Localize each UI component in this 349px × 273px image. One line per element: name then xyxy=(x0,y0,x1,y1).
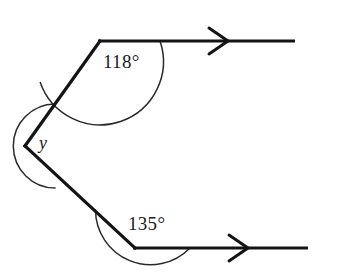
left-angle-arc xyxy=(13,104,55,188)
top-angle-arc xyxy=(40,41,163,125)
geometry-diagram: 118° y 135° xyxy=(0,0,349,273)
upper-left-side xyxy=(25,41,100,146)
top-angle-label: 118° xyxy=(103,51,140,72)
bottom-angle-label: 135° xyxy=(128,213,165,234)
left-angle-label: y xyxy=(37,133,47,153)
geometry-canvas: 118° y 135° xyxy=(0,0,349,273)
lower-left-side xyxy=(25,146,135,248)
